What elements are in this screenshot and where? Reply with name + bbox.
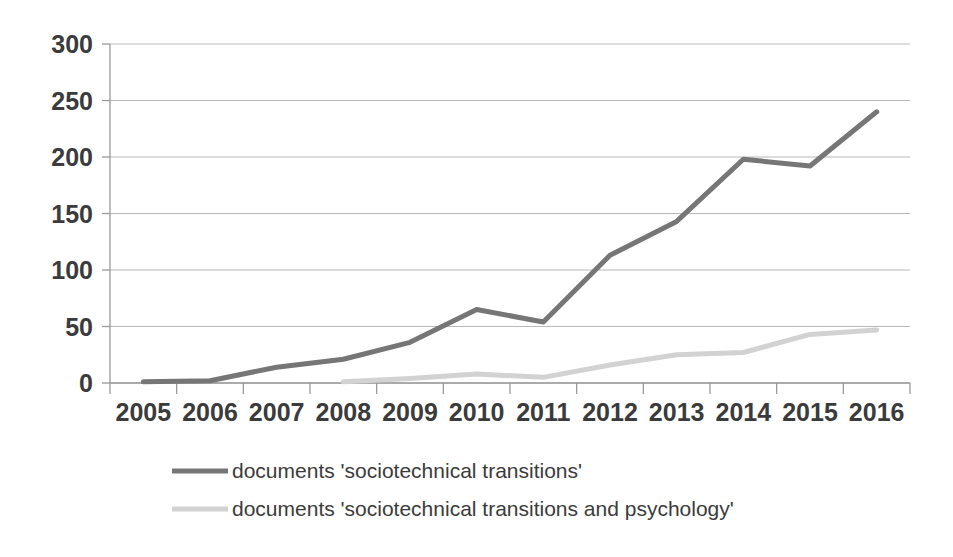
x-axis-tick-label: 2009 [382,398,438,426]
x-axis-tick-label: 2005 [116,398,172,426]
legend-label-1: documents 'sociotechnical transitions' [232,459,582,482]
x-axis-tick-label: 2012 [582,398,638,426]
chart-canvas: 050100150200250300 200520062007200820092… [0,0,953,557]
y-axis-tick-label: 0 [79,369,93,397]
y-axis-tick-label: 50 [65,313,93,341]
series-lines [143,112,876,382]
x-axis-tick-label: 2006 [182,398,238,426]
x-axis-tick-label: 2007 [249,398,305,426]
y-axis-tick-label: 200 [51,143,93,171]
x-axis-tick-label: 2013 [649,398,705,426]
x-axis-tick-label: 2016 [849,398,905,426]
x-axis-tick-label: 2011 [516,398,570,426]
y-axis [102,44,110,383]
x-axis-tick-label: 2015 [782,398,838,426]
line-chart: 050100150200250300 200520062007200820092… [0,0,953,557]
y-axis-tick-label: 300 [51,30,93,58]
x-axis-tick-labels: 2005200620072008200920102011201220132014… [116,398,905,426]
series-line-1 [143,112,876,382]
x-axis-tick-label: 2010 [449,398,505,426]
legend-label-2: documents 'sociotechnical transitions an… [232,497,734,520]
x-axis-tick-label: 2014 [716,398,772,426]
y-axis-tick-label: 150 [51,200,93,228]
y-axis-tick-label: 250 [51,87,93,115]
y-axis-tick-label: 100 [51,256,93,284]
x-axis [110,383,910,394]
y-axis-tick-labels: 050100150200250300 [51,30,93,397]
gridlines [110,44,910,383]
x-axis-tick-label: 2008 [316,398,372,426]
chart-legend: documents 'sociotechnical transitions'do… [172,459,734,520]
